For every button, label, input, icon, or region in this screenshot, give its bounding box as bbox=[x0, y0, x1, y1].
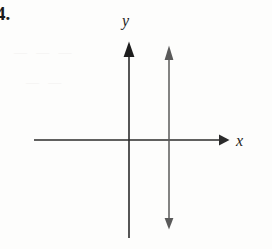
x-axis bbox=[34, 135, 230, 146]
x-axis-arrowhead-right bbox=[219, 135, 230, 146]
coordinate-plane-figure bbox=[0, 0, 272, 249]
x-axis-label: x bbox=[236, 133, 243, 149]
plotted-vertical-line bbox=[165, 46, 174, 230]
y-axis-arrowhead-up bbox=[124, 42, 135, 58]
vertical-line-arrowhead-up bbox=[165, 46, 174, 61]
vertical-line-arrowhead-down bbox=[165, 218, 174, 230]
y-axis-label: y bbox=[122, 13, 129, 29]
figure-page: — — — — — 4. y x bbox=[0, 0, 272, 249]
